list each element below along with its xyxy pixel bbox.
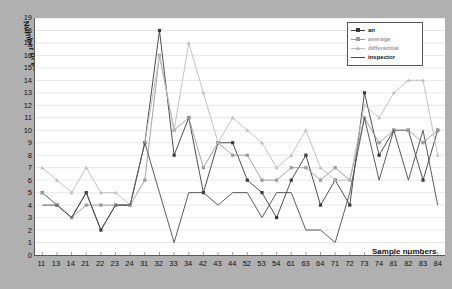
- x-axis-tick: 61: [287, 260, 295, 268]
- x-axis-tick: 34: [184, 260, 192, 268]
- x-axis-tick: 72: [345, 260, 353, 268]
- chart-figure: 012345678910111213141516171819 Number of…: [0, 0, 452, 289]
- y-axis-tick: 4: [2, 202, 32, 210]
- x-axis-tick: 44: [228, 260, 236, 268]
- x-axis-tick: 14: [67, 260, 75, 268]
- x-axis-tick: 83: [419, 260, 427, 268]
- y-axis-tick: 3: [2, 215, 32, 223]
- x-axis-tick: 42: [199, 260, 207, 268]
- x-axis-tick: 23: [111, 260, 119, 268]
- x-axis-tick: 11: [37, 260, 45, 268]
- y-axis-tick: 2: [2, 227, 32, 235]
- y-axis-tick: 5: [2, 190, 32, 198]
- y-axis-tick: 14: [2, 77, 32, 85]
- y-axis-tick: 13: [2, 89, 32, 97]
- x-axis-tick: 81: [389, 260, 397, 268]
- x-axis-tick: 73: [360, 260, 368, 268]
- x-axis-tick: 13: [52, 260, 60, 268]
- x-axis-tick: 33: [169, 260, 177, 268]
- x-axis-tick: 71: [331, 260, 339, 268]
- y-axis-tick: 10: [2, 127, 32, 135]
- legend-item[interactable]: inspector: [351, 53, 419, 61]
- legend-item-label: inspector: [368, 54, 395, 60]
- x-axis-tick: 64: [316, 260, 324, 268]
- y-axis-tick: 9: [2, 140, 32, 148]
- legend-marker-icon: [351, 44, 365, 52]
- legend-marker-icon: [351, 53, 365, 61]
- x-axis-title: Sample numbers: [372, 247, 436, 256]
- y-axis-tick: 1: [2, 240, 32, 248]
- chart-legend: anaveragedifferentialinspector: [347, 22, 423, 66]
- y-axis-tick: 11: [2, 114, 32, 122]
- x-axis-tick: 24: [125, 260, 133, 268]
- y-axis-tick: 6: [2, 177, 32, 185]
- y-axis-tick: 7: [2, 165, 32, 173]
- legend-marker-icon: [351, 26, 365, 34]
- x-axis-tick: 31: [140, 260, 148, 268]
- legend-item[interactable]: differential: [351, 44, 419, 52]
- x-axis-tick: 21: [81, 260, 89, 268]
- legend-item-label: an: [368, 27, 375, 33]
- y-axis-tick: 0: [2, 252, 32, 260]
- x-axis-tick: 43: [213, 260, 221, 268]
- x-axis-tick-labels: 1113142122232431323334424344525354616364…: [34, 260, 445, 280]
- x-axis-tick: 74: [375, 260, 383, 268]
- x-axis-tick: 54: [272, 260, 280, 268]
- x-axis-tick: 53: [257, 260, 265, 268]
- legend-item[interactable]: average: [351, 35, 419, 43]
- legend-marker-icon: [351, 35, 365, 43]
- y-axis-tick: 12: [2, 102, 32, 110]
- x-axis-tick: 22: [96, 260, 104, 268]
- y-axis-tick: 8: [2, 152, 32, 160]
- legend-item-label: average: [368, 36, 391, 42]
- x-axis-tick: 52: [243, 260, 251, 268]
- legend-item[interactable]: an: [351, 26, 419, 34]
- x-axis-tick: 63: [301, 260, 309, 268]
- y-axis-tick: 15: [2, 64, 32, 72]
- x-axis-tick: 32: [155, 260, 163, 268]
- legend-item-label: differential: [368, 45, 399, 51]
- x-axis-tick: 84: [433, 260, 441, 268]
- x-axis-tick: 82: [404, 260, 412, 268]
